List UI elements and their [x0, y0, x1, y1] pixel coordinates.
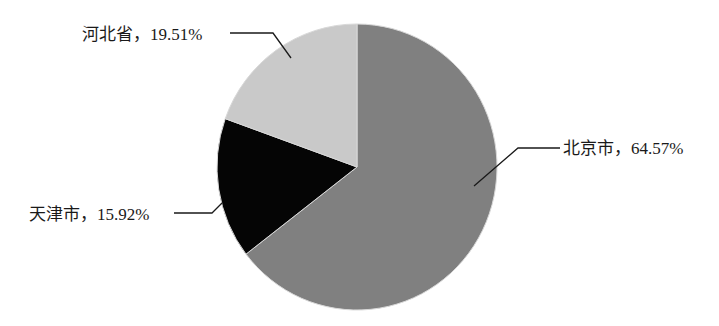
leader-line-tianjin [174, 203, 222, 213]
data-label-tianjin: 天津市，15.92% [29, 205, 149, 224]
data-label-beijing: 北京市，64.57% [563, 139, 683, 158]
pie-chart: 北京市，64.57% 天津市，15.92% 河北省，19.51% [0, 0, 719, 326]
pie-slices [217, 24, 497, 310]
data-label-hebei: 河北省，19.51% [82, 25, 202, 44]
